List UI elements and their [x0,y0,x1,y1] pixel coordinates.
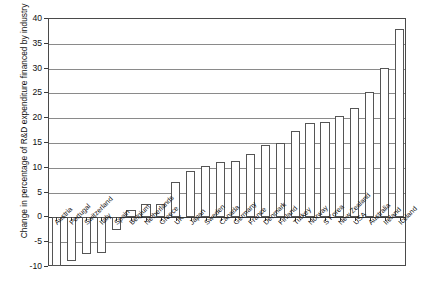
x-tick-mark [400,217,401,221]
x-tick-mark [146,217,147,221]
bar [335,116,344,218]
bar [67,217,76,260]
x-tick-mark [116,217,117,221]
bar [305,123,314,218]
x-tick-mark [71,217,72,221]
y-tick-mark [44,216,48,217]
plot-inner [49,19,405,265]
y-tick-mark [44,241,48,242]
x-tick-mark [221,217,222,221]
x-tick-mark [310,217,311,221]
bar [380,68,389,217]
y-tick-mark [44,117,48,118]
x-tick-mark [176,217,177,221]
bar [126,210,135,217]
y-tick-mark [44,192,48,193]
plot-area [48,18,406,266]
x-tick-mark [355,217,356,221]
x-tick-mark [235,217,236,221]
bar [216,162,225,218]
bars-layer [49,19,405,265]
x-tick-mark [370,217,371,221]
bar [261,145,270,217]
x-tick-mark [206,217,207,221]
y-tick-mark [44,266,48,267]
bar [141,204,150,217]
x-tick-mark [161,217,162,221]
x-tick-mark [56,217,57,221]
y-tick-label: -5 [16,236,42,246]
bar [395,29,404,217]
x-tick-mark [265,217,266,221]
y-tick-label: -10 [16,261,42,271]
y-tick-label: 20 [16,112,42,122]
y-tick-label: 25 [16,87,42,97]
y-tick-label: 15 [16,137,42,147]
bar [201,166,210,218]
bar [320,122,329,217]
y-tick-mark [44,142,48,143]
x-tick-mark [101,217,102,221]
bar [82,217,91,253]
y-tick-mark [44,167,48,168]
y-tick-label: 40 [16,13,42,23]
bar [186,171,195,218]
x-tick-mark [191,217,192,221]
bar [291,131,300,217]
x-tick-mark [280,217,281,221]
bar [231,161,240,217]
chart-container: Change in percentage of R&D expenditure … [0,0,426,299]
bar [97,217,106,253]
x-tick-mark [295,217,296,221]
x-tick-mark [86,217,87,221]
bar [52,217,61,265]
x-tick-mark [131,217,132,221]
y-tick-label: 10 [16,162,42,172]
x-tick-mark [385,217,386,221]
bar [276,143,285,218]
y-tick-mark [44,18,48,19]
y-tick-label: 35 [16,38,42,48]
y-tick-mark [44,68,48,69]
x-tick-mark [340,217,341,221]
bar [350,108,359,218]
y-tick-label: 30 [16,63,42,73]
bar [365,92,374,217]
x-tick-mark [250,217,251,221]
x-tick-mark [325,217,326,221]
y-tick-label: 5 [16,187,42,197]
bar [156,204,165,218]
y-tick-mark [44,92,48,93]
bar [171,182,180,218]
y-tick-mark [44,43,48,44]
y-tick-label: 0 [16,211,42,221]
bar [246,154,255,217]
